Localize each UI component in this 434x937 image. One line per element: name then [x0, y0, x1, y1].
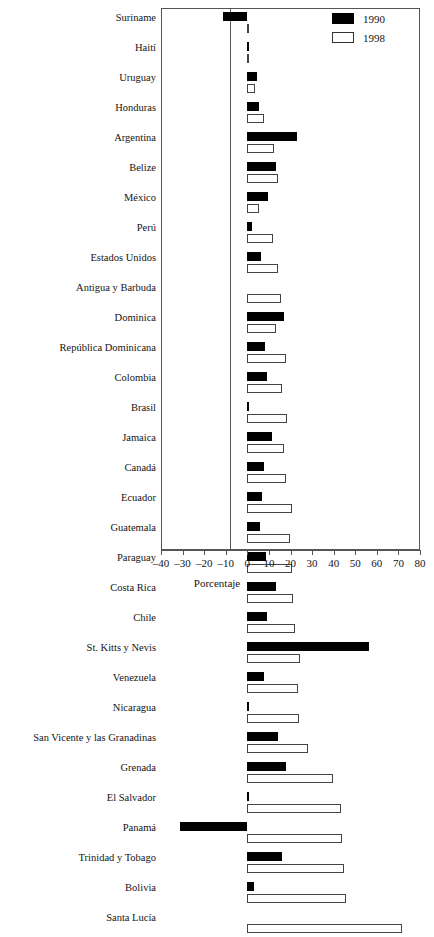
bar-group [161, 159, 420, 189]
chart-row: St. Kitts y Nevis [0, 639, 434, 669]
legend-label-1990: 1990 [363, 13, 385, 25]
chart-row: Uruguay [0, 69, 434, 99]
bar-1990 [247, 132, 297, 141]
category-label: Colombia [0, 372, 156, 384]
category-label: Suriname [0, 12, 156, 24]
bar-1998 [247, 414, 287, 423]
chart-row: Panamá [0, 819, 434, 849]
bar-1998 [247, 834, 342, 843]
bar-group [161, 819, 420, 849]
chart-row: Bolivia [0, 879, 434, 909]
legend-label-1998: 1998 [363, 32, 385, 44]
bar-1998 [247, 84, 255, 93]
category-label: Santa Lucía [0, 912, 156, 924]
bar-1998 [247, 324, 276, 333]
x-tick [247, 550, 248, 555]
bar-1990 [247, 162, 276, 171]
bar-group [161, 309, 420, 339]
category-label: San Vicente y las Granadinas [0, 732, 156, 744]
chart-row: Honduras [0, 99, 434, 129]
x-axis-title: Porcentaje [0, 577, 434, 589]
bar-1998 [247, 774, 332, 783]
category-label: Grenada [0, 762, 156, 774]
bar-group [161, 429, 420, 459]
category-label: México [0, 192, 156, 204]
bar-group [161, 759, 420, 789]
bar-1998 [247, 504, 291, 513]
legend-item-1998: 1998 [332, 28, 420, 47]
x-tick [398, 550, 399, 555]
bar-1990 [247, 852, 282, 861]
bar-1990 [247, 522, 260, 531]
bar-1990 [247, 432, 272, 441]
bar-1998 [247, 24, 249, 33]
chart-row: Belize [0, 159, 434, 189]
legend-item-1990: 1990 [332, 9, 420, 28]
bar-group [161, 849, 420, 879]
bar-1990 [247, 492, 262, 501]
bar-group [161, 609, 420, 639]
bar-1990 [247, 462, 263, 471]
chart-row: Chile [0, 609, 434, 639]
category-label: Antigua y Barbuda [0, 282, 156, 294]
category-label: Trinidad y Tobago [0, 852, 156, 864]
bar-1998 [247, 594, 292, 603]
chart-row: México [0, 189, 434, 219]
x-tick [312, 550, 313, 555]
category-label: Haití [0, 42, 156, 54]
x-tick [355, 550, 356, 555]
category-label: Panamá [0, 822, 156, 834]
bar-group [161, 369, 420, 399]
category-label: Belize [0, 162, 156, 174]
bar-1998 [247, 864, 344, 873]
bar-1990 [247, 762, 286, 771]
bar-1998 [247, 714, 299, 723]
x-tick [183, 550, 184, 555]
bar-1998 [247, 924, 401, 933]
bar-1990 [247, 702, 249, 711]
chart-rows: SurinameHaitíUruguayHondurasArgentinaBel… [0, 9, 434, 549]
category-label: Jamaica [0, 432, 156, 444]
bar-group [161, 519, 420, 549]
category-label: Nicaragua [0, 702, 156, 714]
bar-1990 [247, 402, 249, 411]
x-tick [161, 550, 162, 555]
bar-1998 [247, 114, 263, 123]
bar-group [161, 189, 420, 219]
x-tick [334, 550, 335, 555]
chart-row: Grenada [0, 759, 434, 789]
chart-row: Brasil [0, 399, 434, 429]
chart-row: Guatemala [0, 519, 434, 549]
bar-1990 [247, 312, 284, 321]
x-tick [226, 550, 227, 555]
category-label: Paraguay [0, 552, 156, 564]
bar-1990 [247, 792, 249, 801]
chart-row: Nicaragua [0, 699, 434, 729]
chart-row: Perú [0, 219, 434, 249]
bar-1990 [247, 732, 277, 741]
bar-1990 [247, 672, 263, 681]
chart-row: Dominica [0, 309, 434, 339]
x-tick [269, 550, 270, 555]
bar-1998 [247, 204, 259, 213]
x-tick [291, 550, 292, 555]
bar-1990 [247, 342, 264, 351]
bar-1998 [247, 144, 274, 153]
bar-1998 [247, 474, 286, 483]
legend: 1990 1998 [332, 9, 420, 47]
category-label: Argentina [0, 132, 156, 144]
chart-row: Colombia [0, 369, 434, 399]
bar-group [161, 99, 420, 129]
bar-1990 [180, 822, 247, 831]
bar-group [161, 699, 420, 729]
category-label: Uruguay [0, 72, 156, 84]
x-tick [377, 550, 378, 555]
bar-group [161, 339, 420, 369]
category-label: St. Kitts y Nevis [0, 642, 156, 654]
bar-group [161, 279, 420, 309]
bar-1998 [247, 54, 249, 63]
category-label: Venezuela [0, 672, 156, 684]
bar-1998 [247, 744, 307, 753]
category-label: Ecuador [0, 492, 156, 504]
bar-1990 [247, 42, 249, 51]
